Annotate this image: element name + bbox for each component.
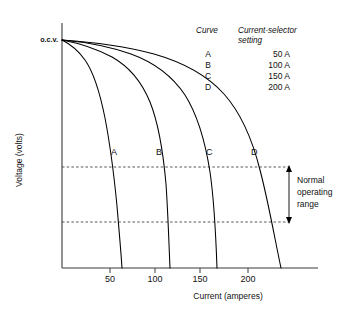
normal-range-label-line1: Normal	[297, 175, 325, 185]
legend-row-setting-b: 100 A	[268, 60, 290, 70]
ocv-label: o.c.v.	[40, 35, 58, 44]
curve-label-d: D	[251, 147, 258, 157]
x-tick-label-100: 100	[147, 274, 162, 284]
normal-range-label-line2: operating	[297, 187, 333, 197]
x-tick-label-200: 200	[240, 274, 255, 284]
x-tick-label-50: 50	[105, 274, 115, 284]
y-axis-title: Voltage (volts)	[14, 133, 24, 187]
legend-row-curve-a: A	[205, 49, 211, 59]
curve-c	[62, 40, 217, 268]
curve-label-a: A	[111, 147, 117, 157]
normal-range-arrow	[286, 165, 292, 224]
legend-header-setting-line2: setting	[238, 36, 263, 45]
legend-row-curve-d: D	[205, 82, 211, 92]
legend-header-curve: Curve	[196, 26, 218, 35]
legend-row-curve-c: C	[205, 71, 211, 81]
legend-row-curve-b: B	[205, 60, 211, 70]
x-axis-title: Current (amperes)	[193, 291, 263, 301]
x-axis-ticks	[110, 268, 248, 273]
legend-row-setting-c: 150 A	[268, 71, 290, 81]
legend-header-setting-line1: Current-selector	[238, 26, 297, 35]
chart-figure: Voltage (volts) 50 100 150 200 Current (…	[0, 0, 343, 311]
x-tick-label-150: 150	[192, 274, 207, 284]
curve-d	[62, 40, 281, 268]
legend-row-setting-d: 200 A	[268, 82, 290, 92]
curve-label-c: C	[206, 147, 213, 157]
legend-row-setting-a: 50 A	[273, 49, 290, 59]
curve-label-b: B	[156, 147, 162, 157]
normal-range-label-line3: range	[297, 199, 319, 209]
